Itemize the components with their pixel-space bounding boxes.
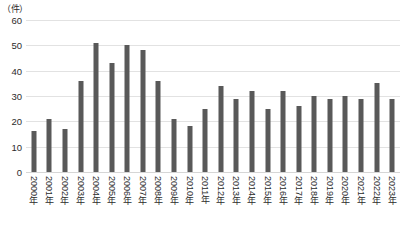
bar bbox=[125, 45, 130, 172]
bar-slot bbox=[104, 20, 120, 172]
bar-slot bbox=[213, 20, 229, 172]
bar-chart: （件） 0102030405060 2000年2001年2002年2003年20… bbox=[0, 0, 418, 230]
x-axis-tick-label: 2023年 bbox=[387, 176, 396, 205]
bar bbox=[172, 119, 177, 172]
y-axis-unit-label: （件） bbox=[2, 2, 28, 15]
x-axis-tick-label: 2008年 bbox=[153, 176, 162, 205]
x-axis-tick-label: 2017年 bbox=[294, 176, 303, 205]
x-axis-tick-label: 2019年 bbox=[325, 176, 334, 205]
bar-slot bbox=[73, 20, 89, 172]
bar bbox=[359, 99, 364, 172]
bar bbox=[156, 81, 161, 172]
bar bbox=[234, 99, 239, 172]
bar bbox=[203, 109, 208, 172]
bar-slot bbox=[307, 20, 323, 172]
bar-slot bbox=[244, 20, 260, 172]
bar bbox=[94, 43, 99, 172]
bar bbox=[374, 83, 379, 172]
x-axis-tick-label: 2001年 bbox=[44, 176, 53, 205]
bar bbox=[109, 63, 114, 172]
bar-slot bbox=[322, 20, 338, 172]
gridline bbox=[26, 172, 400, 173]
x-axis-tick-label: 2007年 bbox=[138, 176, 147, 205]
x-axis-tick-label: 2018年 bbox=[309, 176, 318, 205]
bar-slot bbox=[57, 20, 73, 172]
x-axis-tick-label: 2000年 bbox=[29, 176, 38, 205]
bar bbox=[140, 50, 145, 172]
bar bbox=[47, 119, 52, 172]
bar bbox=[31, 131, 36, 172]
bar-slot bbox=[275, 20, 291, 172]
bar bbox=[343, 96, 348, 172]
x-axis-tick-label: 2016年 bbox=[278, 176, 287, 205]
x-axis-tick-label: 2011年 bbox=[200, 176, 209, 204]
bar bbox=[249, 91, 254, 172]
bar-slot bbox=[88, 20, 104, 172]
bar-slot bbox=[26, 20, 42, 172]
bars-group bbox=[26, 20, 400, 172]
x-axis-tick-label: 2015年 bbox=[263, 176, 272, 205]
bar-slot bbox=[182, 20, 198, 172]
bar bbox=[78, 81, 83, 172]
bar bbox=[187, 126, 192, 172]
bar-slot bbox=[42, 20, 58, 172]
x-axis-tick-label: 2004年 bbox=[91, 176, 100, 205]
bar bbox=[281, 91, 286, 172]
y-axis-tick-label: 50 bbox=[11, 40, 22, 51]
x-axis-tick-label: 2006年 bbox=[122, 176, 131, 205]
x-axis-tick-label: 2002年 bbox=[60, 176, 69, 205]
bar-slot bbox=[338, 20, 354, 172]
x-axis-tick-label: 2013年 bbox=[231, 176, 240, 205]
bar-slot bbox=[369, 20, 385, 172]
bar-slot bbox=[151, 20, 167, 172]
bar bbox=[62, 129, 67, 172]
x-axis-tick-label: 2020年 bbox=[340, 176, 349, 205]
plot-area: 0102030405060 bbox=[26, 20, 400, 172]
x-axis-tick-label: 2014年 bbox=[247, 176, 256, 205]
x-axis-tick-label: 2005年 bbox=[107, 176, 116, 205]
bar-slot bbox=[260, 20, 276, 172]
bar-slot bbox=[197, 20, 213, 172]
bar-slot bbox=[291, 20, 307, 172]
y-axis-tick-label: 60 bbox=[11, 15, 22, 26]
bar bbox=[265, 109, 270, 172]
bar-slot bbox=[229, 20, 245, 172]
y-axis-tick-label: 30 bbox=[11, 91, 22, 102]
bar-slot bbox=[353, 20, 369, 172]
bar bbox=[312, 96, 317, 172]
x-axis-tick-label: 2021年 bbox=[356, 176, 365, 205]
bar bbox=[390, 99, 395, 172]
bar bbox=[327, 99, 332, 172]
x-axis-tick-label: 2022年 bbox=[372, 176, 381, 205]
x-axis-tick-label: 2012年 bbox=[216, 176, 225, 205]
y-axis-tick-label: 10 bbox=[11, 141, 22, 152]
bar-slot bbox=[166, 20, 182, 172]
bar-slot bbox=[384, 20, 400, 172]
bar bbox=[218, 86, 223, 172]
x-axis-tick-label: 2003年 bbox=[76, 176, 85, 205]
bar-slot bbox=[120, 20, 136, 172]
y-axis-tick-label: 0 bbox=[17, 167, 22, 178]
y-axis-tick-label: 40 bbox=[11, 65, 22, 76]
bar bbox=[296, 106, 301, 172]
bar-slot bbox=[135, 20, 151, 172]
y-axis-tick-label: 20 bbox=[11, 116, 22, 127]
x-axis-tick-label: 2009年 bbox=[169, 176, 178, 205]
x-axis-tick-label: 2010年 bbox=[185, 176, 194, 205]
